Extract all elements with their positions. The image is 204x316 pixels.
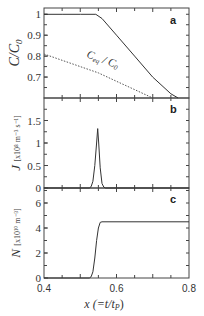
x-tick-label: 0.4: [37, 283, 51, 294]
y-tick-label: 0: [36, 182, 42, 194]
y-tick-label: 1: [36, 8, 42, 20]
y-axis-label-a: C/C0: [7, 39, 24, 67]
series-line-n: [44, 222, 189, 278]
y-tick-label: 0.9: [27, 29, 41, 41]
panel-label-a: a: [170, 14, 177, 26]
panel-label-b: b: [170, 103, 177, 115]
y-tick-label: 0.5: [27, 160, 41, 172]
series-line-j: [44, 129, 189, 188]
panel-frame-c: [44, 188, 189, 278]
y-tick-label: 4: [36, 222, 42, 234]
y-tick-label: 0.7: [27, 71, 41, 83]
panel-frame-a: [44, 8, 189, 98]
data-curves: [44, 14, 189, 278]
plot-frames: [44, 8, 189, 278]
axis-ticks: [44, 8, 189, 278]
y-tick-label: 2: [36, 247, 42, 259]
y-axis-label-c: N [x10¹⁰ m⁻³]: [8, 208, 23, 259]
ceq-c0-annotation: Ceq / C0: [85, 48, 122, 73]
axis-labels: 10.90.80.71.510.5064200.40.60.8C/C0J [x1…: [7, 8, 196, 294]
panel-frame-b: [44, 98, 189, 188]
x-tick-label: 0.8: [182, 283, 196, 294]
y-tick-label: 0.8: [27, 50, 41, 62]
y-tick-label: 6: [36, 197, 42, 209]
y-axis-label-b: J [x10⁸ m⁻³ s⁻¹]: [8, 115, 23, 171]
y-tick-label: 1: [36, 137, 42, 149]
y-tick-label: 1.5: [27, 115, 41, 127]
x-axis-label: x (=t/tP): [83, 297, 123, 312]
x-tick-label: 0.6: [110, 283, 124, 294]
panel-label-c: c: [170, 193, 176, 205]
figure: 10.90.80.71.510.5064200.40.60.8C/C0J [x1…: [0, 0, 204, 316]
